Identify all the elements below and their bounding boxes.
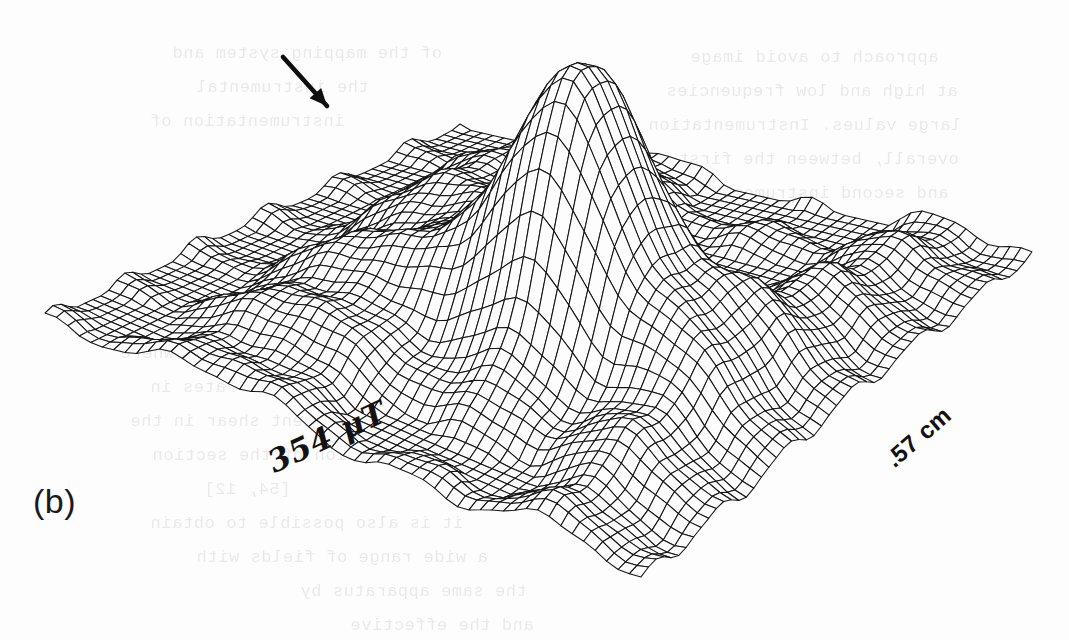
surface-mesh-plot [0,0,1069,640]
figure-panel: approach to avoid imageat high and low f… [0,0,1069,640]
panel-label: (b) [33,482,76,521]
pointer-arrow [283,57,327,106]
mesh-wireframe [45,63,1032,577]
